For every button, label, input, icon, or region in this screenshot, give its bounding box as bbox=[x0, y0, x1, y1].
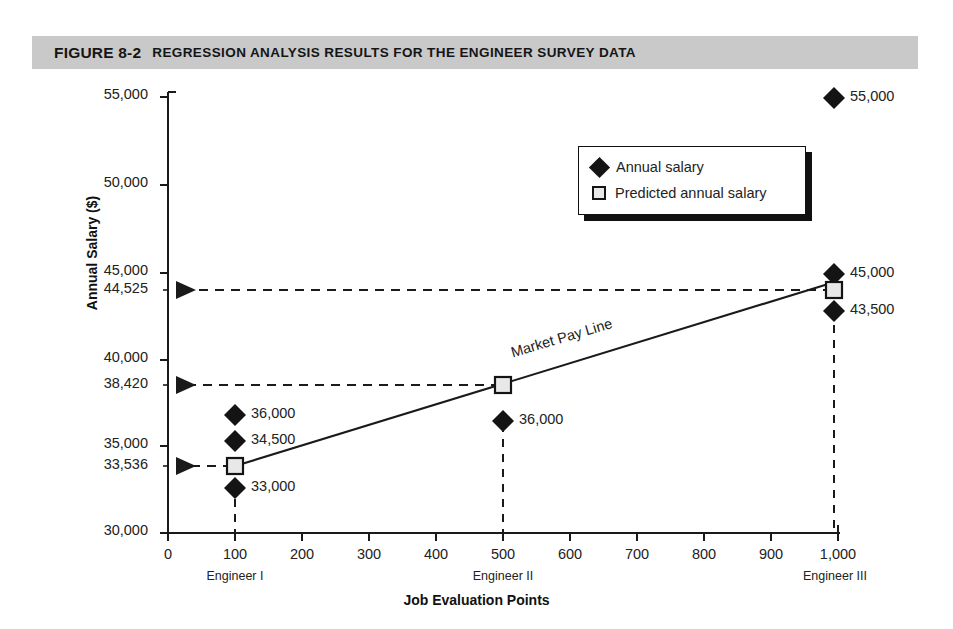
x-group-label-engineer-1: Engineer I bbox=[175, 569, 295, 583]
legend-label-predicted-salary: Predicted annual salary bbox=[615, 185, 767, 201]
point-label-eng1-34500: 34,500 bbox=[251, 431, 295, 447]
legend-item-annual-salary[interactable]: Annual salary bbox=[591, 154, 805, 180]
x-tick-label-100: 100 bbox=[200, 546, 270, 562]
y-tick-label-55000: 55,000 bbox=[58, 86, 148, 102]
x-tick-label-900: 900 bbox=[736, 546, 806, 562]
marker-annual-salary bbox=[224, 477, 246, 499]
x-tick-label-600: 600 bbox=[535, 546, 605, 562]
y-tick-label-35000: 35,000 bbox=[58, 435, 148, 451]
y-tick-label-44525: 44,525 bbox=[58, 280, 148, 296]
x-tick-label-400: 400 bbox=[401, 546, 471, 562]
marker-annual-salary bbox=[823, 87, 845, 109]
x-tick-label-500: 500 bbox=[468, 546, 538, 562]
chart-legend: Annual salary Predicted annual salary bbox=[578, 146, 806, 215]
point-label-eng1-36000: 36,000 bbox=[251, 405, 295, 421]
y-tick-label-45000: 45,000 bbox=[58, 262, 148, 278]
y-tick-label-30000: 30,000 bbox=[58, 522, 148, 538]
y-tick-label-38420: 38,420 bbox=[58, 375, 148, 391]
marker-annual-salary bbox=[823, 300, 845, 322]
point-label-eng3-43500: 43,500 bbox=[850, 301, 894, 317]
x-group-label-engineer-3: Engineer III bbox=[775, 569, 895, 583]
diamond-marker-icon bbox=[589, 156, 610, 177]
x-group-label-engineer-2: Engineer II bbox=[443, 569, 563, 583]
marker-annual-salary bbox=[224, 404, 246, 426]
legend-item-predicted-salary[interactable]: Predicted annual salary bbox=[591, 180, 805, 206]
x-tick-label-1000: 1,000 bbox=[803, 546, 873, 562]
y-axis-ticks bbox=[160, 97, 168, 533]
figure-container: FIGURE 8-2 Regression Analysis Results f… bbox=[0, 0, 953, 629]
x-tick-label-800: 800 bbox=[669, 546, 739, 562]
x-axis-ticks bbox=[168, 533, 838, 541]
point-label-eng3-55000: 55,000 bbox=[850, 88, 894, 104]
x-tick-label-300: 300 bbox=[334, 546, 404, 562]
series-predicted-salary-markers bbox=[227, 282, 842, 474]
marker-predicted-salary bbox=[826, 282, 842, 298]
market-pay-line bbox=[235, 281, 838, 466]
point-label-eng1-33000: 33,000 bbox=[251, 478, 295, 494]
marker-predicted-salary bbox=[227, 458, 243, 474]
legend-label-annual-salary: Annual salary bbox=[616, 159, 704, 175]
marker-annual-salary bbox=[224, 430, 246, 452]
point-label-eng2-36000: 36,000 bbox=[519, 411, 563, 427]
point-label-eng3-45000: 45,000 bbox=[850, 264, 894, 280]
x-tick-label-0: 0 bbox=[133, 546, 203, 562]
x-tick-label-200: 200 bbox=[267, 546, 337, 562]
x-tick-label-700: 700 bbox=[602, 546, 672, 562]
marker-predicted-salary bbox=[495, 377, 511, 393]
marker-annual-salary bbox=[492, 410, 514, 432]
x-axis-title: Job Evaluation Points bbox=[0, 592, 953, 608]
y-tick-label-50000: 50,000 bbox=[58, 174, 148, 190]
square-marker-icon bbox=[592, 186, 606, 200]
y-tick-label-33536: 33,536 bbox=[58, 456, 148, 472]
y-tick-label-40000: 40,000 bbox=[58, 349, 148, 365]
